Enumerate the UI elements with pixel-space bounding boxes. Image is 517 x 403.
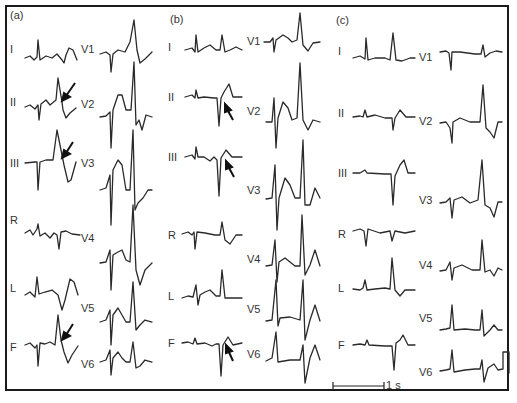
ecg-trace-a-F — [25, 315, 78, 366]
ecg-trace-a-I — [25, 40, 77, 63]
ecg-trace-c-R — [353, 229, 415, 246]
ecg-trace-c-V4 — [440, 240, 502, 280]
ecg-trace-c-V3 — [440, 160, 502, 218]
ecg-trace-b-V5 — [266, 280, 320, 340]
ecg-trace-b-V2 — [266, 63, 320, 148]
arrow-icon-a-F — [62, 324, 73, 340]
ecg-trace-a-L — [25, 277, 78, 310]
ecg-trace-a-V4 — [100, 205, 152, 290]
ecg-trace-c-V5 — [440, 305, 502, 336]
ecg-trace-c-L — [353, 258, 415, 296]
ecg-trace-c-II — [353, 110, 415, 130]
ecg-trace-c-V1 — [440, 45, 502, 70]
ecg-trace-b-V4 — [266, 215, 320, 282]
ecg-trace-b-V3 — [266, 140, 320, 230]
arrow-icon-b-III — [226, 161, 234, 177]
ecg-trace-a-V3 — [100, 130, 152, 225]
arrow-icon-b-F — [226, 345, 233, 361]
ecg-trace-b-F — [182, 337, 242, 376]
arrow-icon-a-III — [62, 142, 73, 158]
ecg-trace-b-V1 — [264, 13, 320, 52]
ecg-trace-a-V1 — [100, 20, 152, 72]
ecg-trace-a-III — [25, 130, 76, 190]
ecg-trace-c-I — [353, 33, 415, 61]
ecg-trace-b-R — [182, 222, 242, 249]
ecg-trace-b-V6 — [266, 332, 320, 383]
ecg-trace-a-II — [25, 78, 76, 120]
ecg-trace-b-L — [182, 270, 242, 305]
ecg-trace-c-III — [353, 160, 415, 205]
ecg-trace-b-I — [185, 35, 242, 52]
ecg-trace-a-V6 — [100, 342, 152, 375]
ecg-trace-a-V2 — [100, 62, 152, 148]
ecg-trace-c-V6 — [440, 350, 509, 382]
ecg-trace-a-V5 — [100, 282, 152, 345]
ecg-trace-b-III — [185, 147, 242, 196]
ecg-trace-c-V2 — [440, 85, 502, 143]
arrow-icon-a-II — [62, 83, 75, 101]
ecg-trace-a-R — [25, 224, 80, 249]
ecg-trace-c-F — [353, 335, 415, 370]
scale-bar — [333, 382, 384, 390]
arrow-icon-b-II — [225, 104, 233, 120]
ecg-traces — [0, 0, 517, 403]
